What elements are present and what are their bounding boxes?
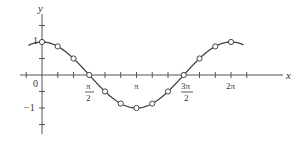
- x-tick-label-pi: π: [134, 81, 139, 91]
- sample-point-marker: [87, 72, 92, 77]
- x-tick-label-pi-half-den: 2: [86, 93, 91, 103]
- x-tick-label-3pi-half-den: 2: [184, 93, 189, 103]
- sample-point-marker: [150, 101, 155, 106]
- sample-point-marker: [228, 39, 233, 44]
- origin-label: 0: [33, 78, 38, 89]
- sample-point-marker: [55, 44, 60, 49]
- sample-point-marker: [39, 39, 44, 44]
- sample-point-marker: [213, 44, 218, 49]
- sample-point-marker: [197, 56, 202, 61]
- sample-point-marker: [165, 89, 170, 94]
- x-tick-label-3pi-half-num: 3π: [181, 81, 191, 91]
- cosine-chart: y x 0 1 −1 π 2 π 3π 2 2π: [0, 0, 303, 143]
- y-axis-label: y: [37, 2, 43, 14]
- sample-point-marker: [134, 105, 139, 110]
- x-tick-label-2pi: 2π: [226, 81, 236, 91]
- axes: [20, 14, 283, 134]
- x-tick-label-pi-half-num: π: [86, 81, 91, 91]
- y-tick-label-1: 1: [33, 35, 38, 46]
- sample-point-marker: [71, 56, 76, 61]
- sample-point-marker: [102, 89, 107, 94]
- x-axis-label: x: [285, 69, 291, 81]
- y-tick-label-neg1: −1: [24, 102, 35, 113]
- sample-point-marker: [181, 72, 186, 77]
- sample-point-marker: [118, 101, 123, 106]
